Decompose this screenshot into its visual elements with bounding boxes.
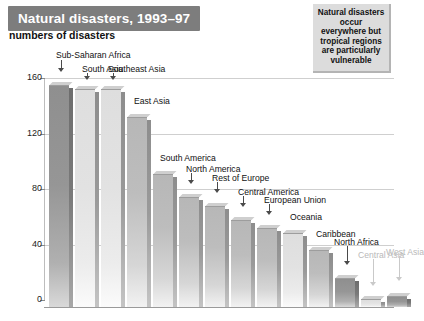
callout-arrow-icon — [188, 173, 195, 184]
bar-side-face — [303, 236, 307, 307]
bar-side-face — [121, 92, 125, 307]
bar-top-face — [310, 247, 333, 250]
bar — [101, 89, 121, 307]
y-axis-tick-label: 160 — [2, 72, 42, 82]
chart-subtitle: numbers of disasters — [9, 29, 115, 41]
arrow-head — [266, 211, 272, 215]
bar-label-sub-saharan-africa: Sub-Saharan Africa — [56, 50, 131, 60]
bar-front-face — [49, 85, 69, 307]
bar — [231, 220, 251, 307]
bar-top-face — [76, 86, 99, 89]
bar — [257, 228, 277, 307]
bar — [387, 296, 407, 307]
bar-front-face — [75, 89, 95, 307]
callout-arrow-icon — [370, 259, 377, 286]
bar-side-face — [329, 253, 333, 307]
bar-label-north-africa: North Africa — [334, 237, 379, 247]
arrow-head — [58, 68, 64, 72]
y-axis-tick-label: 120 — [2, 128, 42, 138]
chart-title: Natural disasters, 1993–97 — [18, 11, 190, 26]
bar — [309, 250, 329, 307]
y-axis-tick-label: 80 — [2, 183, 42, 193]
bar-front-face — [283, 233, 303, 307]
bar — [49, 85, 69, 307]
bar-side-face — [277, 231, 281, 307]
arrow-stem — [373, 259, 374, 282]
bar-front-face — [231, 220, 251, 307]
callout-arrow-icon — [344, 246, 351, 265]
arrow-stem — [269, 204, 270, 211]
bar — [283, 233, 303, 307]
bar-label-oceania: Oceania — [290, 212, 322, 222]
bar-side-face — [407, 299, 411, 307]
arrow-stem — [61, 60, 62, 68]
bar-top-face — [154, 171, 177, 174]
callout-arrow-icon — [396, 256, 403, 281]
bar-top-face — [336, 275, 359, 278]
y-axis-tick-label: 40 — [2, 239, 42, 249]
arrow-head — [214, 189, 220, 193]
annotation-text: Natural disasters occur everywhere but t… — [317, 8, 385, 66]
bar-front-face — [309, 250, 329, 307]
arrow-stem — [399, 256, 400, 277]
annotation-box: Natural disasters occur everywhere but t… — [313, 4, 391, 73]
bar-top-face — [102, 86, 125, 89]
arrow-head — [188, 180, 194, 184]
bar — [179, 197, 199, 307]
bar-front-face — [179, 197, 199, 307]
arrow-head — [84, 76, 90, 80]
bar-front-face — [387, 296, 407, 307]
arrow-head — [370, 282, 376, 286]
arrow-stem — [243, 196, 244, 203]
callout-arrow-icon — [214, 182, 221, 193]
bar-side-face — [147, 120, 151, 307]
callout-arrow-icon — [266, 204, 273, 215]
bar-top-face — [180, 194, 203, 197]
arrow-head — [396, 277, 402, 281]
callout-arrow-icon — [110, 73, 117, 80]
bar-top-face — [206, 203, 229, 206]
bar-front-face — [361, 299, 381, 307]
bar-front-face — [335, 278, 355, 307]
bar-top-face — [362, 296, 385, 299]
plot-area: 04080120160 Sub-Saharan AfricaSouth Asia… — [44, 70, 394, 308]
bar-label-european-union: European Union — [264, 195, 326, 205]
bar-side-face — [225, 209, 229, 307]
bar-side-face — [355, 281, 359, 307]
bar-front-face — [101, 89, 121, 307]
bar-front-face — [153, 174, 173, 307]
bar — [153, 174, 173, 307]
bar-label-south-america: South America — [160, 153, 216, 163]
arrow-stem — [191, 173, 192, 180]
bar — [205, 206, 225, 307]
bar-side-face — [251, 223, 255, 307]
bar-side-face — [199, 200, 203, 307]
bar — [127, 117, 147, 307]
bar-top-face — [388, 293, 411, 296]
bar-top-face — [128, 114, 151, 117]
bar — [75, 89, 95, 307]
bar-front-face — [257, 228, 277, 307]
arrow-head — [240, 203, 246, 207]
bar-side-face — [173, 177, 177, 307]
bar-top-face — [258, 225, 281, 228]
callout-arrow-icon — [84, 73, 91, 80]
bar-front-face — [127, 117, 147, 307]
bar-top-face — [50, 82, 73, 85]
arrow-stem — [217, 182, 218, 189]
bar-label-east-asia: East Asia — [134, 96, 170, 106]
x-axis-line — [44, 307, 394, 308]
bar-top-face — [232, 217, 255, 220]
bar-front-face — [205, 206, 225, 307]
bar-side-face — [95, 92, 99, 307]
y-axis-tick-label: 0 — [2, 294, 42, 304]
bar-label-west-asia: West Asia — [386, 247, 424, 257]
chart-title-banner: Natural disasters, 1993–97 — [8, 6, 200, 31]
arrow-stem — [347, 246, 348, 261]
callout-arrow-icon — [240, 196, 247, 207]
callout-arrow-icon — [58, 60, 65, 72]
arrow-head — [110, 76, 116, 80]
bar — [335, 278, 355, 307]
bar — [361, 299, 381, 307]
